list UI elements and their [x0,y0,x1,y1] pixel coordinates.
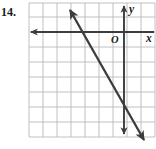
graph-background [29,3,155,137]
exercise-number: 14. [1,6,16,18]
y-axis-label: y [127,3,135,16]
exercise-figure: 14. [0,0,156,149]
x-axis-label: x [145,32,152,44]
origin-label: O [111,34,119,45]
coordinate-graph: y x O [28,0,156,149]
